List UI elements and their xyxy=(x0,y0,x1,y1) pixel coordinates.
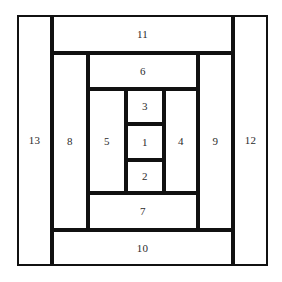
cell-label-11: 11 xyxy=(137,29,148,40)
cell-6: 6 xyxy=(88,53,198,89)
cell-9: 9 xyxy=(198,53,233,230)
cell-11: 11 xyxy=(52,15,233,53)
cell-label-4: 4 xyxy=(178,136,184,147)
cell-label-5: 5 xyxy=(104,136,110,147)
cell-label-3: 3 xyxy=(142,101,148,112)
cell-3: 3 xyxy=(126,89,164,124)
cell-1: 1 xyxy=(126,124,164,160)
cell-4: 4 xyxy=(164,89,198,193)
cell-7: 7 xyxy=(88,193,198,230)
cell-13: 13 xyxy=(17,15,52,266)
cell-label-12: 12 xyxy=(245,135,257,146)
cell-8: 8 xyxy=(52,53,88,230)
dissection-figure: 12345678910111213 xyxy=(0,0,282,282)
cell-label-2: 2 xyxy=(142,171,148,182)
cell-5: 5 xyxy=(88,89,126,193)
cell-10: 10 xyxy=(52,230,233,266)
cell-label-6: 6 xyxy=(140,66,146,77)
cell-label-8: 8 xyxy=(67,136,73,147)
cell-label-7: 7 xyxy=(140,206,146,217)
cell-label-1: 1 xyxy=(142,137,148,148)
cell-label-10: 10 xyxy=(137,243,149,254)
cell-12: 12 xyxy=(233,15,268,266)
cell-label-13: 13 xyxy=(29,135,41,146)
cell-2: 2 xyxy=(126,160,164,193)
cell-label-9: 9 xyxy=(213,136,219,147)
